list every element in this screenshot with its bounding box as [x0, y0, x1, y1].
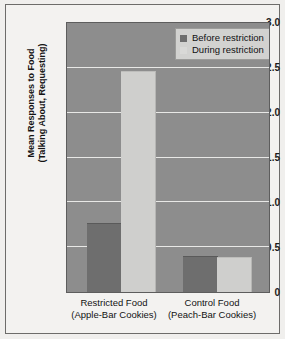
y-axis-title: Mean Responses to Food (Talking About, R… — [26, 28, 48, 178]
legend-item-during: During restriction — [180, 44, 264, 56]
gridline-1.5 — [67, 157, 269, 158]
bar-restricted-during — [121, 71, 156, 292]
legend-label-before: Before restriction — [192, 32, 264, 44]
x-category-control-name: Control Food — [154, 297, 270, 309]
bar-control-before — [183, 256, 218, 292]
y-axis-title-line-1: Mean Responses to Food — [26, 28, 37, 178]
chart-figure: Mean Responses to Food (Talking About, R… — [0, 0, 285, 339]
bar-restricted-before — [87, 223, 122, 292]
gridline-2.5 — [67, 67, 269, 68]
x-category-label-control: Control Food (Peach-Bar Cookies) — [154, 297, 270, 320]
x-category-control-sub: (Peach-Bar Cookies) — [154, 309, 270, 321]
legend-label-during: During restriction — [192, 44, 264, 56]
bar-control-during — [217, 257, 252, 292]
legend-swatch-before-icon — [180, 35, 187, 42]
legend: Before restriction During restriction — [175, 28, 270, 60]
gridline-2.0 — [67, 112, 269, 113]
legend-swatch-during-icon — [180, 47, 187, 54]
y-axis-title-line-2: (Talking About, Requesting) — [37, 28, 48, 178]
legend-item-before: Before restriction — [180, 32, 264, 44]
plot-area: Before restriction During restriction — [66, 22, 270, 293]
gridline-1.0 — [67, 201, 269, 202]
